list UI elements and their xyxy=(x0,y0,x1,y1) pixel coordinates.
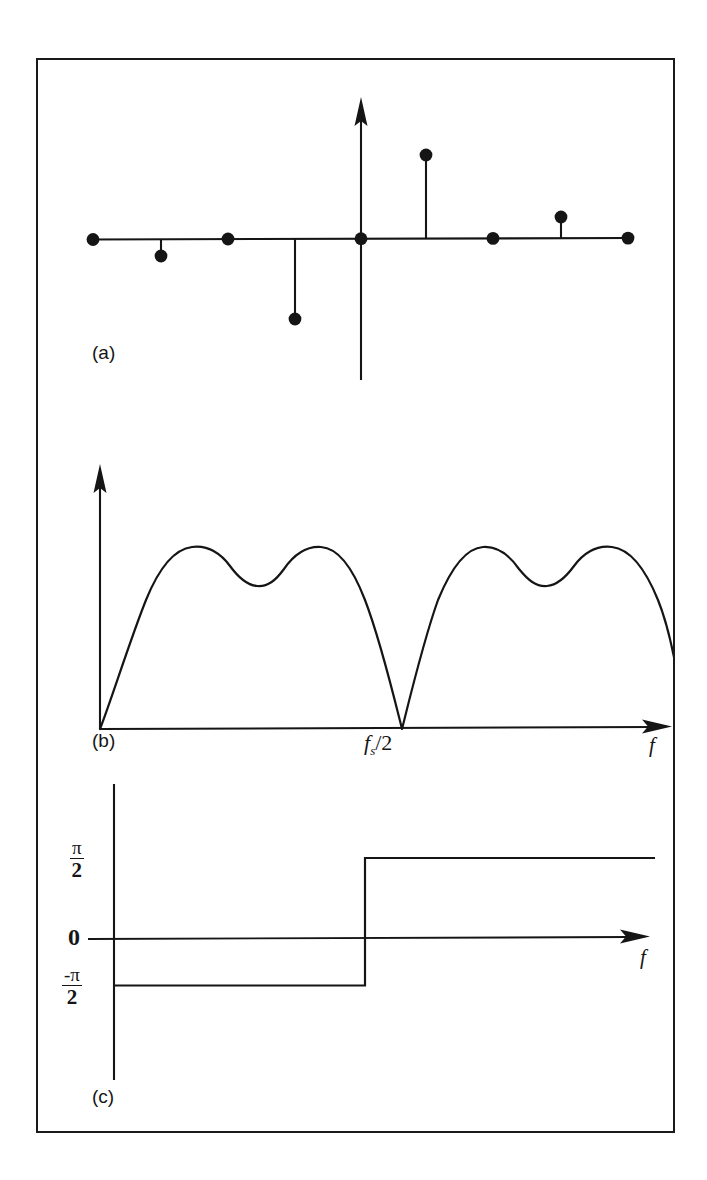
panel-c-ytick-zero: 0 xyxy=(68,924,80,951)
panel-c-ytick-minus-pi-over-2-numerator: -π xyxy=(62,965,82,986)
panel-c-phase-curve xyxy=(115,858,655,986)
panel-c-xaxis-label: f xyxy=(640,945,646,970)
stem-dot-minus3 xyxy=(155,250,168,263)
panel-a-stem-plot xyxy=(38,60,673,1131)
panel-b-xtick-fs-over-2: fs/2 xyxy=(364,730,392,759)
panel-a-graphics xyxy=(87,97,635,380)
stem-dot-plus2 xyxy=(487,232,500,245)
stem-dot-minus1 xyxy=(289,313,302,326)
panel-c-ytick-pi-over-2-denominator: 2 xyxy=(70,859,84,881)
stem-dot-minus4 xyxy=(87,233,100,246)
panel-a-label: (a) xyxy=(92,342,115,364)
stem-dot-minus2 xyxy=(222,233,235,246)
panel-c-ytick-pi-over-2: π 2 xyxy=(70,838,84,882)
panel-c-ytick-minus-pi-over-2: -π 2 xyxy=(62,965,82,1009)
panel-b-graphics xyxy=(94,464,674,734)
panel-b-magnitude-curve xyxy=(100,547,673,729)
panel-c-label: (c) xyxy=(92,1086,114,1108)
stem-dot-zero xyxy=(355,232,368,245)
stem-dot-plus1 xyxy=(420,149,433,162)
panel-b-label: (b) xyxy=(92,730,115,752)
stem-dot-plus3 xyxy=(555,211,568,224)
panel-c-ytick-pi-over-2-numerator: π xyxy=(70,838,84,859)
panel-c-graphics xyxy=(88,784,655,1080)
figure-root: (a) (b) (c) f fs/2 f π 2 0 -π 2 xyxy=(0,0,707,1180)
stem-dot-plus4 xyxy=(622,232,635,245)
panel-c-horizontal-axis xyxy=(88,937,630,939)
figure-border-frame: (a) (b) (c) f fs/2 f π 2 0 -π 2 xyxy=(36,58,675,1133)
panel-c-ytick-minus-pi-over-2-denominator: 2 xyxy=(62,986,82,1008)
panel-b-xaxis-label: f xyxy=(649,733,655,758)
panel-b-horizontal-axis xyxy=(100,727,655,729)
